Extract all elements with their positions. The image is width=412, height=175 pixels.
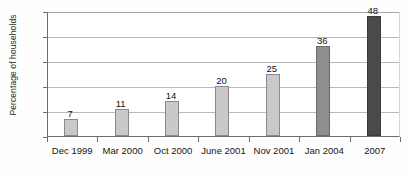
x-tick-label: Nov 2001 xyxy=(254,145,295,156)
x-tick-label: 2007 xyxy=(364,145,385,156)
bar-value-label: 25 xyxy=(256,63,288,74)
bar xyxy=(266,74,280,137)
bar-value-label: 11 xyxy=(105,98,137,109)
bar xyxy=(367,16,381,136)
x-tick-mark xyxy=(198,137,199,142)
bar-value-label: 48 xyxy=(357,5,389,16)
bar xyxy=(115,109,129,137)
bar xyxy=(316,46,330,136)
x-tick-label: Mar 2000 xyxy=(103,145,143,156)
bar-value-label: 36 xyxy=(306,35,338,46)
gridline xyxy=(48,37,399,38)
x-tick-mark xyxy=(148,137,149,142)
y-axis-title: Percentage of households xyxy=(8,0,18,135)
x-tick-mark xyxy=(299,137,300,142)
bar-value-label: 20 xyxy=(205,75,237,86)
x-tick-mark xyxy=(350,137,351,142)
bar xyxy=(215,86,229,136)
x-tick-label: Oct 2000 xyxy=(154,145,193,156)
gridline xyxy=(48,62,399,63)
x-tick-label: Dec 1999 xyxy=(52,145,93,156)
bar-value-label: 14 xyxy=(155,90,187,101)
x-tick-mark xyxy=(249,137,250,142)
x-tick-label: Jan 2004 xyxy=(305,145,344,156)
gridline xyxy=(48,12,399,13)
x-tick-label: June 2001 xyxy=(201,145,245,156)
bar xyxy=(165,101,179,136)
bar-chart: Percentage of households 01020304050 711… xyxy=(0,0,412,175)
bar-value-label: 7 xyxy=(54,108,86,119)
x-tick-mark xyxy=(47,137,48,142)
bar xyxy=(64,119,78,137)
x-tick-mark xyxy=(400,137,401,142)
x-tick-mark xyxy=(97,137,98,142)
